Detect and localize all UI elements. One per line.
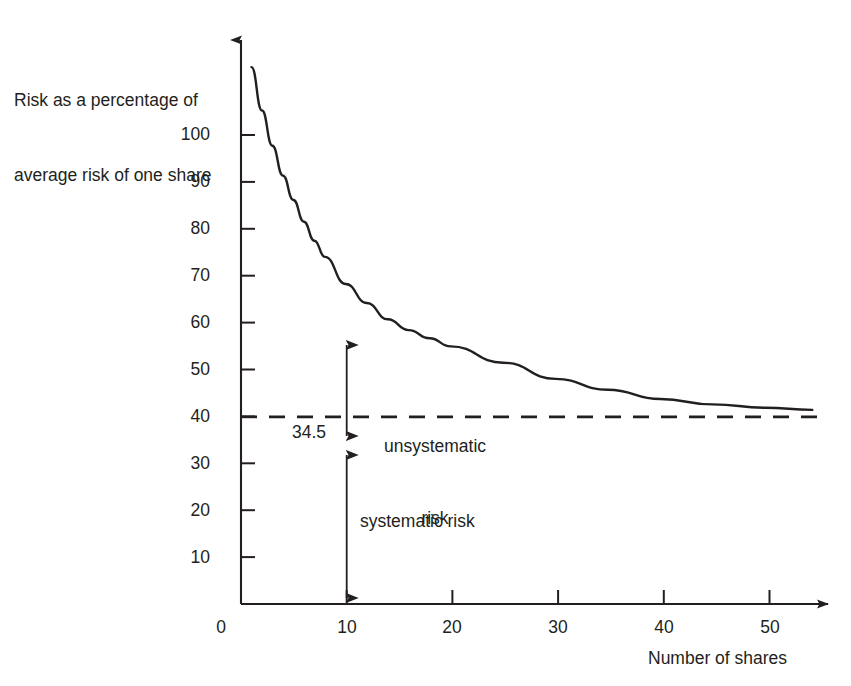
- unsystematic-risk-label: unsystematic risk: [360, 386, 510, 578]
- y-tick-label-100: 100: [150, 124, 210, 145]
- y-tick-label-60: 60: [150, 312, 210, 333]
- x-axis-ticks: [347, 590, 770, 604]
- y-axis-title-line1: Risk as a percentage of: [14, 88, 211, 113]
- x-tick-label-50: 50: [750, 617, 790, 638]
- y-tick-label-30: 30: [150, 453, 210, 474]
- y-tick-label-70: 70: [150, 265, 210, 286]
- y-tick-label-90: 90: [150, 171, 210, 192]
- x-tick-label-10: 10: [327, 617, 367, 638]
- chart-page: · · ·: [0, 0, 851, 686]
- x-tick-label-20: 20: [432, 617, 472, 638]
- systematic-risk-label: systematic risk: [360, 509, 475, 533]
- x-tick-label-30: 30: [538, 617, 578, 638]
- unsystematic-risk-label-line1: unsystematic: [360, 434, 510, 458]
- y-tick-label-10: 10: [150, 547, 210, 568]
- y-tick-label-50: 50: [150, 359, 210, 380]
- y-tick-label-20: 20: [150, 500, 210, 521]
- y-tick-label-40: 40: [150, 406, 210, 427]
- y-axis-ticks: [241, 135, 255, 557]
- risk-curve: [252, 67, 813, 410]
- y-tick-label-80: 80: [150, 218, 210, 239]
- x-axis-title: Number of shares: [648, 646, 787, 671]
- x-tick-label-40: 40: [644, 617, 684, 638]
- reference-line-value-label: 34.5: [274, 420, 326, 444]
- x-tick-label-0: 0: [201, 617, 241, 638]
